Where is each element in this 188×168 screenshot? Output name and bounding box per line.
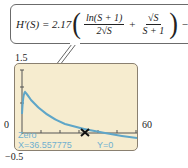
fraction-2-denominator: S + 1: [140, 25, 166, 37]
formula-lhs: H′(S) = 2.17: [16, 18, 71, 30]
fraction-2-numerator: √S: [146, 12, 161, 25]
plus-operator: +: [129, 18, 135, 30]
y-readout: Y=0: [97, 140, 113, 150]
y-max-label: 1.5: [15, 52, 28, 63]
mode-label: Zero: [18, 130, 37, 140]
minus-operator: −: [182, 18, 188, 30]
derivative-formula: H′(S) = 2.17 ( ln(S + 1) 2√S + √S S + 1 …: [16, 7, 188, 41]
right-paren: ): [169, 10, 178, 39]
calculator-screen: Zero X=36.557775 Y=0: [14, 63, 138, 151]
fraction-1: ln(S + 1) 2√S: [84, 12, 124, 37]
fraction-1-denominator: 2√S: [94, 25, 114, 37]
x-max-label: 60: [142, 119, 152, 130]
left-paren: (: [72, 10, 81, 39]
fraction-1-numerator: ln(S + 1): [84, 12, 124, 25]
x-min-label: 0: [4, 119, 9, 130]
y-min-label: −0.5: [5, 151, 23, 162]
x-readout: X=36.557775: [18, 140, 72, 150]
fraction-2: √S S + 1: [140, 12, 166, 37]
